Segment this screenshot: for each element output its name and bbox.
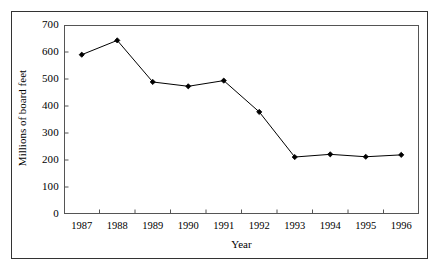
line-chart-plot xyxy=(64,25,419,214)
y-axis-tick-labels: 0100200300400500600700 xyxy=(26,0,59,273)
x-tick-label: 1991 xyxy=(213,220,234,231)
x-tick-label: 1994 xyxy=(320,220,341,231)
chart-figure: 0100200300400500600700 19871988198919901… xyxy=(0,0,440,273)
x-tick-label: 1993 xyxy=(284,220,305,231)
data-point-marker xyxy=(363,154,368,159)
x-tick-label: 1987 xyxy=(71,220,92,231)
x-tick-label: 1996 xyxy=(391,220,412,231)
y-axis-title: Millions of board feet xyxy=(16,48,28,188)
y-axis-tick-marks xyxy=(64,25,69,214)
data-point-marker xyxy=(79,52,84,57)
y-tick-label: 600 xyxy=(42,46,59,57)
y-tick-label: 100 xyxy=(42,181,59,192)
x-axis-title: Year xyxy=(64,238,419,250)
y-tick-label: 200 xyxy=(42,154,59,165)
x-tick-label: 1990 xyxy=(178,220,199,231)
y-tick-label: 500 xyxy=(42,73,59,84)
y-tick-label: 400 xyxy=(42,100,59,111)
data-point-marker xyxy=(328,152,333,157)
data-point-marker xyxy=(399,152,404,157)
y-tick-label: 0 xyxy=(53,208,59,219)
y-tick-label: 700 xyxy=(42,19,59,30)
x-tick-label: 1992 xyxy=(249,220,270,231)
x-tick-label: 1995 xyxy=(355,220,376,231)
x-tick-label: 1988 xyxy=(107,220,128,231)
x-axis-tick-marks xyxy=(100,210,384,215)
data-series-group xyxy=(79,38,404,160)
y-tick-label: 300 xyxy=(42,127,59,138)
series-line xyxy=(82,40,402,157)
x-tick-label: 1989 xyxy=(142,220,163,231)
data-point-marker xyxy=(186,84,191,89)
